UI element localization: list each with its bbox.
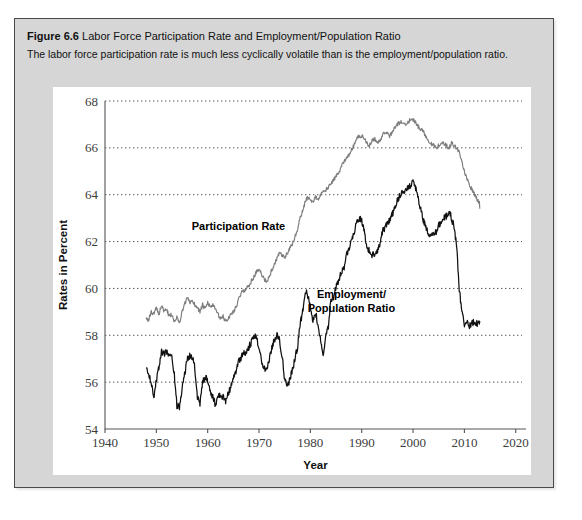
figure-caption: Figure 6.6 Labor Force Participation Rat…	[27, 29, 543, 62]
line-chart-svg: 5456586062646668 19401950196019701980199…	[53, 87, 531, 475]
svg-text:62: 62	[85, 234, 98, 249]
x-axis-tick-labels: 194019501960197019801990200020102020	[92, 435, 529, 450]
series-annotation: Participation Rate	[192, 220, 286, 232]
svg-text:1960: 1960	[195, 435, 221, 450]
svg-text:1940: 1940	[92, 435, 118, 450]
svg-text:2000: 2000	[400, 435, 426, 450]
figure-panel: Figure 6.6 Labor Force Participation Rat…	[14, 18, 554, 488]
figure-title-text: Labor Force Participation Rate and Emplo…	[82, 30, 401, 42]
svg-text:1980: 1980	[297, 435, 323, 450]
svg-text:1990: 1990	[349, 435, 375, 450]
svg-text:1970: 1970	[246, 435, 272, 450]
svg-text:1950: 1950	[143, 435, 169, 450]
figure-title: Figure 6.6 Labor Force Participation Rat…	[27, 29, 543, 44]
y-axis-title: Rates in Percent	[57, 220, 69, 310]
svg-text:56: 56	[85, 375, 99, 390]
figure-subtitle: The labor force participation rate is mu…	[27, 47, 543, 62]
svg-text:58: 58	[85, 328, 98, 343]
x-axis-title: Year	[303, 459, 328, 471]
svg-text:66: 66	[85, 140, 99, 155]
svg-text:64: 64	[85, 187, 99, 202]
svg-text:60: 60	[85, 281, 98, 296]
svg-text:68: 68	[85, 94, 98, 109]
series-annotation: Population Ratio	[308, 302, 396, 314]
chart-plot-area: 5456586062646668 19401950196019701980199…	[53, 87, 531, 475]
svg-text:2010: 2010	[451, 435, 477, 450]
svg-text:2020: 2020	[503, 435, 529, 450]
series-annotation: Employment/	[317, 288, 386, 300]
figure-number: Figure 6.6	[27, 30, 79, 42]
